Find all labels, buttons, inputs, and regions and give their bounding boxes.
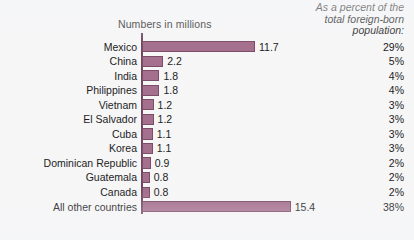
bar-value-label: 15.4 [295, 200, 315, 215]
bar-row-label: Philippines [0, 83, 137, 98]
percent-value: 2% [344, 170, 404, 185]
bar-row-label: India [0, 69, 137, 84]
bar-row-label: Cuba [0, 127, 137, 142]
bar-value-label: 1.8 [163, 83, 178, 98]
bar-value-label: 1.1 [157, 127, 172, 142]
bar-row-label: Korea [0, 141, 137, 156]
bar-row-label: All other countries [0, 200, 137, 215]
bar [142, 143, 153, 154]
bar-row: El Salvador1.23% [0, 112, 414, 127]
bar-row: Philippines1.84% [0, 83, 414, 98]
chart-figure: Numbers in millions As a percent of the … [0, 0, 414, 240]
percent-value: 4% [344, 69, 404, 84]
bar-value-label: 1.1 [157, 141, 172, 156]
percent-value: 2% [344, 185, 404, 200]
percent-value: 5% [344, 54, 404, 69]
bar-value-label: 0.8 [154, 185, 169, 200]
bar-value-label: 1.2 [158, 98, 173, 113]
bar-row: Mexico11.729% [0, 40, 414, 55]
bar [142, 114, 154, 125]
percent-value: 2% [344, 156, 404, 171]
chart-title: Numbers in millions [118, 18, 212, 30]
percent-column-header-line-1: As a percent of the [254, 2, 404, 14]
bar-row: Dominican Republic0.92% [0, 156, 414, 171]
bar-value-label: 0.8 [154, 170, 169, 185]
percent-value: 29% [344, 40, 404, 55]
bar-row: Vietnam1.23% [0, 98, 414, 113]
bar-value-label: 1.2 [158, 112, 173, 127]
bar [142, 70, 159, 81]
bar-value-label: 1.8 [163, 69, 178, 84]
bar-row-label: Dominican Republic [0, 156, 137, 171]
bar [142, 85, 159, 96]
bar [142, 157, 151, 168]
bar-row: Korea1.13% [0, 141, 414, 156]
bar-row: All other countries15.438% [0, 200, 414, 215]
bar-row-label: Guatemala [0, 170, 137, 185]
bar-row-label: El Salvador [0, 112, 137, 127]
bar [142, 201, 291, 212]
plot-area: Mexico11.729%China2.25%India1.84%Philipp… [0, 33, 414, 233]
percent-value: 3% [344, 98, 404, 113]
bar-row-label: Vietnam [0, 98, 137, 113]
bar [142, 187, 150, 198]
bar-row: India1.84% [0, 69, 414, 84]
bar [142, 99, 154, 110]
bar [142, 41, 255, 52]
bar-row-label: China [0, 54, 137, 69]
bar-row: Guatemala0.82% [0, 170, 414, 185]
bar-value-label: 11.7 [259, 40, 279, 55]
percent-value: 4% [344, 83, 404, 98]
percent-value: 3% [344, 112, 404, 127]
percent-column-header: As a percent of the total foreign-born p… [254, 2, 404, 37]
bar [142, 172, 150, 183]
bar [142, 128, 153, 139]
percent-value: 3% [344, 127, 404, 142]
bar-value-label: 2.2 [167, 54, 182, 69]
percent-value: 38% [344, 200, 404, 215]
bar-value-label: 0.9 [155, 156, 170, 171]
bar-row: China2.25% [0, 54, 414, 69]
bar-row-label: Mexico [0, 40, 137, 55]
bar-row: Cuba1.13% [0, 127, 414, 142]
bar-row-label: Canada [0, 185, 137, 200]
percent-value: 3% [344, 141, 404, 156]
bar-row: Canada0.82% [0, 185, 414, 200]
bar [142, 56, 163, 67]
